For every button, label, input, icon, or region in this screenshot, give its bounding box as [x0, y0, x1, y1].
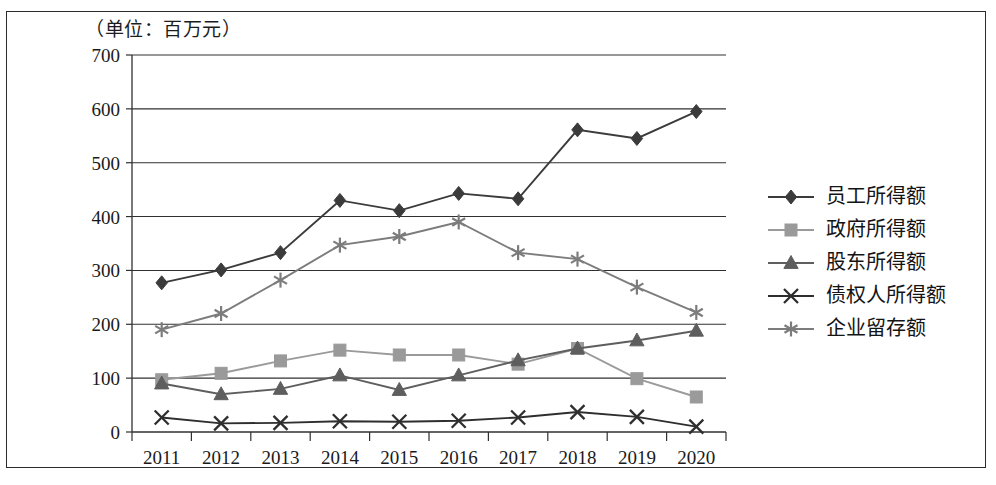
diamond-marker — [275, 246, 286, 260]
series-line — [162, 412, 697, 427]
y-tick-label: 0 — [111, 422, 121, 443]
square-marker — [215, 367, 227, 379]
series-line — [162, 349, 697, 397]
x-tick-label: 2019 — [618, 447, 656, 468]
series-line — [162, 112, 697, 283]
asterisk-marker — [690, 305, 703, 320]
square-marker — [690, 391, 702, 403]
y-tick-label: 100 — [92, 368, 121, 389]
x-tick-label: 2018 — [559, 447, 597, 468]
y-tick-label: 500 — [92, 153, 121, 174]
series-square — [156, 343, 703, 403]
diamond-marker — [394, 204, 405, 218]
y-tick-label: 200 — [92, 314, 121, 335]
series-x — [155, 405, 704, 434]
line-chart: 7006005004003002001000 20112012201320142… — [0, 0, 996, 485]
diamond-marker — [691, 105, 702, 119]
x-tick-label: 2011 — [143, 447, 180, 468]
square-marker — [334, 344, 346, 356]
legend-label: 债权人所得额 — [826, 284, 946, 306]
diamond-marker — [156, 276, 167, 290]
series-triangle — [155, 323, 704, 399]
triangle-marker — [784, 256, 798, 269]
asterisk-marker — [215, 306, 228, 321]
x-axis: 2011201220132014201520162017201820192020 — [132, 55, 726, 468]
x-tick-label: 2015 — [380, 447, 418, 468]
square-marker — [453, 349, 465, 361]
square-marker — [393, 349, 405, 361]
chart-plot-area: 7006005004003002001000 20112012201320142… — [0, 0, 996, 485]
triangle-marker — [689, 323, 703, 336]
y-tick-label: 300 — [92, 260, 121, 281]
legend-label: 政府所得额 — [826, 218, 926, 240]
x-tick-label: 2016 — [440, 447, 478, 468]
y-tick-label: 600 — [92, 99, 121, 120]
triangle-marker — [333, 368, 347, 381]
x-tick-label: 2013 — [262, 447, 300, 468]
diamond-marker — [453, 186, 464, 200]
legend-item[interactable]: 政府所得额 — [768, 218, 926, 240]
series-line — [162, 331, 697, 395]
diamond-marker — [334, 193, 345, 207]
square-marker — [785, 224, 797, 236]
diamond-marker — [785, 190, 796, 204]
asterisk-marker — [630, 280, 643, 295]
series-line — [162, 222, 697, 330]
legend-label: 企业留存额 — [826, 317, 926, 339]
x-tick-label: 2014 — [321, 447, 360, 468]
square-marker — [275, 355, 287, 367]
asterisk-marker — [274, 273, 287, 288]
y-tick-label: 400 — [92, 207, 121, 228]
x-tick-label: 2012 — [202, 447, 240, 468]
square-marker — [631, 373, 643, 385]
y-axis-ticks: 7006005004003002001000 — [92, 45, 133, 443]
x-tick-label: 2020 — [677, 447, 715, 468]
data-series — [155, 105, 704, 434]
series-asterisk — [155, 214, 703, 337]
series-diamond — [156, 105, 702, 290]
diamond-marker — [631, 131, 642, 145]
x-tick-label: 2017 — [499, 447, 537, 468]
chart-legend: 员工所得额政府所得额股东所得额债权人所得额企业留存额 — [768, 185, 946, 339]
legend-item[interactable]: 员工所得额 — [768, 185, 926, 207]
legend-item[interactable]: 企业留存额 — [768, 317, 926, 339]
y-tick-label: 700 — [92, 45, 121, 66]
legend-label: 股东所得额 — [826, 251, 926, 273]
legend-item[interactable]: 股东所得额 — [768, 251, 926, 273]
legend-label: 员工所得额 — [826, 185, 926, 207]
legend-item[interactable]: 债权人所得额 — [768, 284, 946, 306]
diamond-marker — [215, 263, 226, 277]
